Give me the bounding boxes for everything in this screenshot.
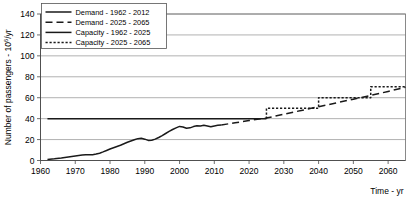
x-axis-tick-labels: 1960197019801990200020102020203020402050… — [31, 166, 398, 176]
x-tick-label-1970: 1970 — [66, 166, 85, 176]
x-tick-label-1990: 1990 — [135, 166, 154, 176]
chart-legend: Demand - 1962 - 2012Demand - 2025 - 2065… — [42, 4, 167, 49]
chart-container: 1960197019801990200020102020203020402050… — [0, 0, 413, 208]
x-tick-label-2010: 2010 — [205, 166, 224, 176]
legend-label-0: Demand - 1962 - 2012 — [76, 8, 150, 17]
passenger-demand-capacity-chart: 1960197019801990200020102020203020402050… — [0, 0, 413, 208]
x-tick-label-2030: 2030 — [274, 166, 293, 176]
y-axis-title-text: Number of passengers - 106/yr — [3, 29, 13, 145]
y-tick-label-40: 40 — [25, 114, 35, 124]
x-tick-label-1960: 1960 — [31, 166, 50, 176]
x-tick-label-2050: 2050 — [344, 166, 363, 176]
y-tick-label-120: 120 — [20, 30, 34, 40]
y-tick-label-80: 80 — [25, 72, 35, 82]
x-tick-label-1980: 1980 — [101, 166, 120, 176]
x-tick-label-2020: 2020 — [240, 166, 259, 176]
y-axis-title: Number of passengers - 106/yr — [3, 29, 13, 145]
x-tick-label-2040: 2040 — [309, 166, 328, 176]
x-axis-title: Time - yr — [370, 186, 403, 196]
y-tick-label-140: 140 — [20, 9, 34, 19]
x-axis-title-text: Time - yr — [370, 186, 403, 196]
legend-label-1: Demand - 2025 - 2065 — [76, 18, 150, 27]
legend-label-3: Capacity - 2025 - 2065 — [76, 38, 151, 47]
series-line-0 — [47, 125, 221, 160]
y-tick-label-100: 100 — [20, 51, 34, 61]
legend-label-2: Capacity - 1962 - 2025 — [76, 28, 151, 37]
x-tick-label-2000: 2000 — [170, 166, 189, 176]
x-tick-label-2060: 2060 — [379, 166, 398, 176]
y-axis-tick-labels: 020406080100120140 — [20, 9, 34, 166]
y-tick-label-20: 20 — [25, 135, 35, 145]
y-tick-label-60: 60 — [25, 93, 35, 103]
y-tick-label-0: 0 — [30, 156, 35, 166]
